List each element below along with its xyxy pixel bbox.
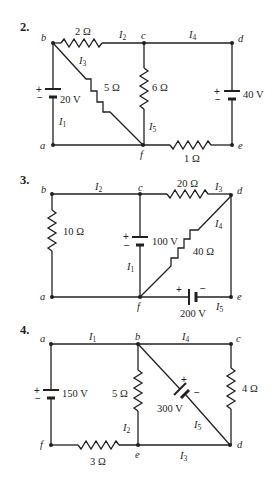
node-label-d: d: [238, 33, 244, 44]
resistor-4ohm: [227, 368, 235, 409]
label-10ohm: 10 Ω: [63, 226, 84, 237]
node-label-c: c: [141, 30, 146, 41]
current-I2: I2: [118, 29, 127, 42]
battery-300v-minus: −: [194, 387, 200, 398]
node-a-dot: [49, 342, 53, 346]
node-c-dot: [142, 41, 146, 45]
node-label-a: a: [40, 291, 45, 302]
label-5ohm: 5 Ω: [112, 388, 128, 399]
label-40ohm: 40 Ω: [193, 246, 214, 257]
current-I2: I2: [122, 422, 131, 435]
label-300v: 300 V: [157, 403, 183, 414]
node-a-dot: [50, 295, 54, 299]
battery-200v-minus: −: [200, 283, 206, 294]
circuit-problem-4: 4. a b c f e: [20, 323, 258, 467]
current-I2: I2: [94, 181, 103, 194]
node-label-c: c: [138, 182, 143, 193]
label-40v: 40 V: [243, 89, 264, 100]
current-I5: I5: [148, 121, 157, 134]
resistor-1ohm: [170, 141, 211, 149]
battery-20v-minus: −: [37, 92, 43, 103]
node-c-dot: [229, 342, 233, 346]
node-label-d: d: [237, 439, 243, 450]
node-label-e: e: [238, 140, 243, 151]
node-f-dot: [141, 143, 145, 147]
current-I5: I5: [193, 419, 202, 432]
battery-300v-plus: +: [181, 374, 187, 385]
node-e-dot: [230, 143, 234, 147]
current-I4: I4: [188, 29, 197, 42]
problem-number: 2.: [20, 20, 29, 34]
label-2ohm: 2 Ω: [75, 26, 91, 37]
resistor-5ohm: [134, 370, 142, 411]
label-3ohm: 3 Ω: [90, 456, 106, 467]
current-I5: I5: [215, 301, 224, 314]
node-label-b: b: [41, 32, 46, 43]
node-d-dot: [230, 41, 234, 45]
node-label-f: f: [40, 439, 45, 450]
node-label-b: b: [41, 184, 46, 195]
current-I3: I3: [179, 450, 188, 463]
node-b-dot: [136, 342, 140, 346]
resistor-10ohm: [48, 210, 56, 251]
battery-200v-plus: +: [176, 284, 182, 295]
current-I1: I1: [126, 261, 135, 274]
node-label-a: a: [40, 333, 45, 344]
current-I4: I4: [181, 331, 190, 344]
node-f-dot: [138, 295, 142, 299]
node-a-dot: [51, 143, 55, 147]
label-20ohm: 20 Ω: [177, 178, 198, 189]
label-150v: 150 V: [62, 388, 88, 399]
node-e-dot: [136, 443, 140, 447]
node-label-b: b: [135, 331, 140, 342]
current-I4: I4: [214, 218, 223, 231]
node-d-dot: [229, 193, 233, 197]
current-I3: I3: [214, 181, 223, 194]
node-label-d: d: [237, 185, 243, 196]
circuit-problem-2: 2. b c d a f: [20, 20, 264, 164]
node-label-e: e: [135, 449, 140, 460]
node-d-dot: [228, 443, 232, 447]
battery-40v-minus: −: [215, 94, 221, 105]
node-label-f: f: [137, 301, 142, 312]
node-e-dot: [229, 295, 233, 299]
battery-100v-minus: −: [124, 240, 130, 251]
label-6ohm: 6 Ω: [152, 82, 168, 93]
current-I1: I1: [58, 116, 67, 129]
resistor-20ohm: [167, 190, 208, 198]
node-label-a: a: [40, 140, 45, 151]
wire-b-battery-diag: [138, 344, 180, 389]
resistor-3ohm: [78, 441, 119, 449]
label-200v: 200 V: [180, 308, 206, 319]
node-label-c: c: [236, 333, 241, 344]
label-4ohm: 4 Ω: [242, 383, 258, 394]
resistor-6ohm: [140, 68, 148, 109]
node-b-dot: [51, 41, 55, 45]
battery-150v-minus: −: [35, 393, 41, 404]
resistor-2ohm: [61, 39, 102, 47]
label-5ohm: 5 Ω: [104, 82, 120, 93]
label-20v: 20 V: [60, 94, 81, 105]
node-label-f: f: [140, 149, 145, 160]
problem-number: 3.: [20, 173, 29, 187]
wire-battery-d-diag: [185, 394, 230, 445]
node-b-dot: [50, 192, 54, 196]
node-label-e: e: [237, 291, 242, 302]
current-I3: I3: [78, 55, 87, 68]
label-100v: 100 V: [152, 236, 178, 247]
problem-number: 4.: [20, 323, 29, 337]
node-f-dot: [49, 443, 53, 447]
label-1ohm: 1 Ω: [184, 153, 200, 164]
current-I1: I1: [88, 331, 97, 344]
circuit-problem-3: 3. b c d a f e: [20, 173, 243, 319]
